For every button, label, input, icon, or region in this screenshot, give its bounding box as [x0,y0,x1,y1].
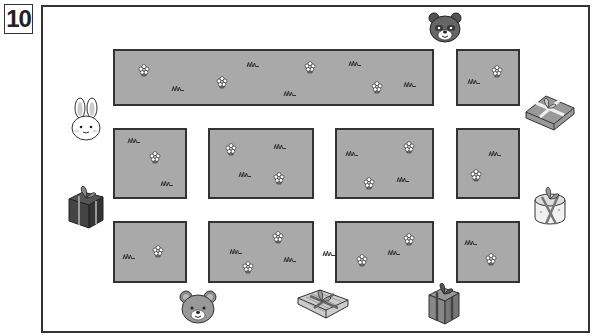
block-top-wide [113,49,434,106]
flower-icon [149,151,161,164]
block-mid-2 [208,128,314,199]
flower-icon [491,65,503,78]
flower-icon [470,169,482,182]
grass-icon [464,239,478,246]
flower-icon [152,245,164,258]
flower-icon [242,261,254,274]
flower-icon [363,177,375,190]
block-bot-4 [456,221,520,283]
grass-icon [171,85,185,92]
gift-dark-left-icon[interactable] [66,185,106,229]
grass-icon [122,253,136,260]
block-bot-2 [208,221,314,283]
flower-icon [403,141,415,154]
grass-icon [229,248,243,255]
flower-icon [371,81,383,94]
rabbit-icon[interactable] [69,97,103,141]
flower-icon [304,61,316,74]
puzzle-number: 10 [4,4,33,34]
grass-icon [127,137,141,144]
grass-icon [246,61,260,68]
grass-icon [160,180,174,187]
grass-icon [467,78,481,85]
gift-flat-right-icon[interactable] [524,94,576,134]
raccoon-icon[interactable] [428,11,462,43]
grass-icon [322,250,336,257]
grass-icon [488,150,502,157]
block-top-right [456,49,520,106]
block-mid-4 [456,128,520,199]
grass-icon [283,90,297,97]
gift-box-bottom-icon[interactable] [426,283,462,325]
flower-icon [403,233,415,246]
block-bot-3 [335,221,434,283]
grass-icon [387,249,401,256]
grass-icon [345,150,359,157]
flower-icon [356,254,368,267]
flower-icon [485,253,497,266]
gift-flat-bottom-icon[interactable] [296,288,350,322]
flower-icon [225,143,237,156]
grass-icon [273,143,287,150]
flower-icon [273,172,285,185]
grass-icon [238,171,252,178]
grass-icon [403,81,417,88]
flower-icon [138,64,150,77]
grass-icon [348,60,362,67]
block-mid-3 [335,128,434,199]
block-bot-1 [113,221,187,283]
gift-round-right-icon[interactable] [532,184,568,226]
grass-icon [396,176,410,183]
flower-icon [272,231,284,244]
bear-icon[interactable] [179,289,217,325]
grass-icon [283,256,297,263]
flower-icon [216,76,228,89]
